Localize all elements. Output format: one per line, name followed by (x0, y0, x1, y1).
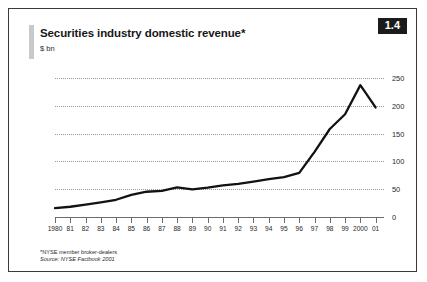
y-axis-tick-label: 50 (392, 185, 400, 194)
x-axis-tick-label: 2000 (353, 225, 368, 232)
y-axis-tick-label: 150 (392, 129, 404, 138)
source-text: Source: NYSE Factbook 2001 (40, 256, 115, 262)
x-axis-tick-label: 01 (372, 225, 379, 232)
revenue-series-line (55, 64, 388, 220)
x-axis-tick-label: 85 (128, 225, 135, 232)
title-accent-bar (29, 25, 34, 59)
x-axis-tick-label: 97 (311, 225, 318, 232)
x-axis-tick-label: 94 (265, 225, 272, 232)
chart-frame: Securities industry domestic revenue* $ … (8, 8, 417, 272)
x-axis-tick-label: 82 (82, 225, 89, 232)
x-axis-tick-label: 90 (204, 225, 211, 232)
x-axis-tick-label: 88 (173, 225, 180, 232)
x-axis-tick-label: 92 (235, 225, 242, 232)
y-axis-tick-label: 250 (392, 74, 404, 83)
x-axis-tick-label: 1980 (48, 225, 63, 232)
x-axis-tick-label: 89 (189, 225, 196, 232)
x-axis-tick-label: 93 (250, 225, 257, 232)
y-axis-tick-label: 100 (392, 157, 404, 166)
y-axis-tick-label: 0 (392, 213, 396, 222)
x-axis-tick-label: 87 (158, 225, 165, 232)
x-axis-tick-label: 96 (296, 225, 303, 232)
page-title: Securities industry domestic revenue* (40, 27, 245, 39)
x-axis-tick-label: 98 (326, 225, 333, 232)
x-axis-tick-label: 84 (112, 225, 119, 232)
x-axis-tick-label: 91 (219, 225, 226, 232)
x-axis-tick-label: 83 (97, 225, 104, 232)
figure-number-badge: 1.4 (378, 18, 407, 34)
y-axis-tick-label: 200 (392, 101, 404, 110)
x-axis-tick-label: 81 (67, 225, 74, 232)
footnote-text: *NYSE member broker-dealers (40, 249, 117, 255)
x-axis-tick-label: 86 (143, 225, 150, 232)
x-axis-tick-label: 95 (280, 225, 287, 232)
chart-subtitle: $ bn (40, 44, 55, 53)
x-axis-tick-label: 99 (341, 225, 348, 232)
